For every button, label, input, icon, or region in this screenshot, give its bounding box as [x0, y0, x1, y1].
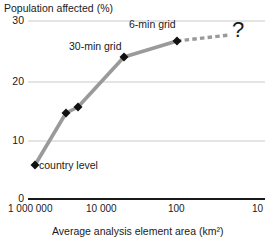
annotation-30min-grid: 30-min grid: [69, 40, 122, 52]
x-axis-title: Average analysis element area (km²): [52, 225, 223, 237]
annotation-6min-grid: 6-min grid: [129, 18, 176, 30]
x-tick-label-10: 10: [252, 203, 263, 214]
data-line-extrapolated: [177, 35, 229, 41]
annotation-country-level: country level: [39, 159, 98, 171]
annotation-question-mark: ?: [232, 19, 244, 41]
data-markers: [31, 37, 182, 170]
x-tick-label-1000000: 1 000 000: [8, 203, 53, 214]
x-tick-label-10000: 10 000: [86, 203, 117, 214]
chart-figure: Population affected (%) 30 20 10 0 count…: [0, 0, 272, 246]
data-line-solid: [35, 41, 177, 165]
data-point-6min-grid: [173, 37, 182, 46]
x-tick-label-100: 100: [168, 203, 185, 214]
